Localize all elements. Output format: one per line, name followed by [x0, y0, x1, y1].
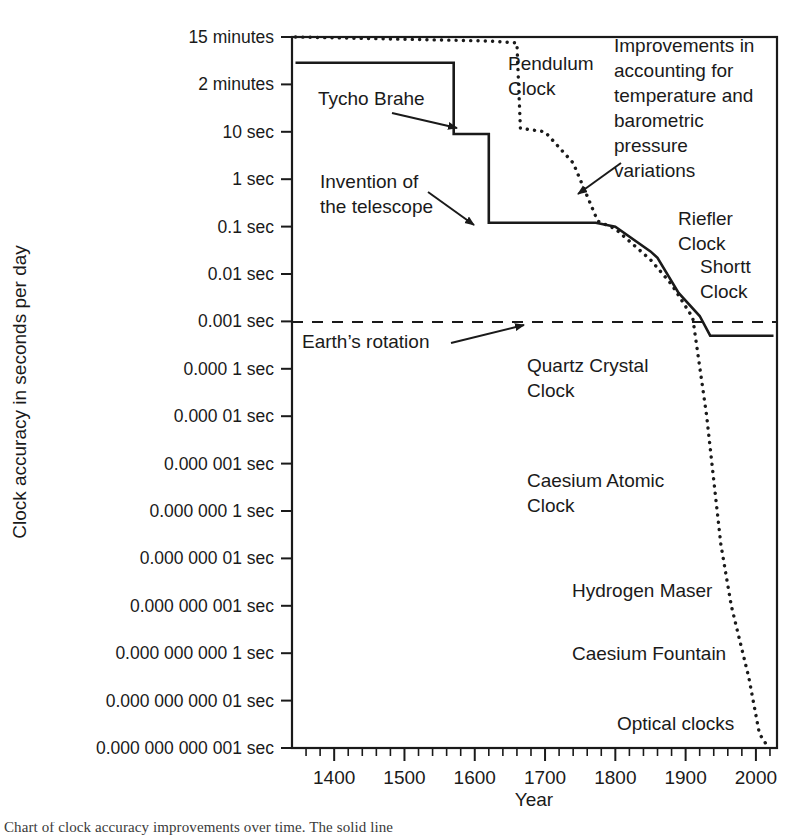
- x-tick-label: 1600: [454, 767, 496, 788]
- y-tick-label: 0.000 000 000 001 sec: [96, 738, 274, 758]
- x-tick-label: 1900: [664, 767, 706, 788]
- annotation-label: Optical clocks: [617, 713, 734, 734]
- annotation-label: pressure: [614, 135, 688, 156]
- annotation-hydrogen-maser: Hydrogen Maser: [572, 580, 713, 601]
- annotation-label: Invention of: [320, 171, 419, 192]
- y-axis: 15 minutes2 minutes10 sec1 sec0.1 sec0.0…: [96, 27, 292, 758]
- y-tick-label: 0.000 01 sec: [174, 406, 274, 426]
- annotation-label: Clock: [508, 78, 556, 99]
- x-tick-label: 1700: [524, 767, 566, 788]
- annotation-label: Improvements in: [614, 35, 754, 56]
- figure-caption-strip: Chart of clock accuracy improvements ove…: [0, 822, 808, 840]
- figure-caption: Chart of clock accuracy improvements ove…: [4, 822, 393, 836]
- y-tick-label: 0.000 000 000 01 sec: [106, 691, 275, 711]
- clock-accuracy-figure: 15 minutes2 minutes10 sec1 sec0.1 sec0.0…: [0, 0, 808, 840]
- y-tick-label: 0.000 000 001 sec: [130, 596, 274, 616]
- annotation-label: Tycho Brahe: [318, 88, 425, 109]
- x-tick-label: 2000: [735, 767, 777, 788]
- annotation-label: Earth’s rotation: [302, 331, 429, 352]
- annotation-label: accounting for: [614, 60, 734, 81]
- y-tick-label: 0.000 000 1 sec: [149, 501, 274, 521]
- annotation-optical-clocks: Optical clocks: [617, 713, 734, 734]
- y-axis-title: Clock accuracy in seconds per day: [9, 245, 30, 539]
- annotation-label: Caesium Atomic: [527, 470, 664, 491]
- y-tick-label: 0.000 1 sec: [184, 359, 275, 379]
- y-tick-label: 0.01 sec: [208, 264, 274, 284]
- annotation-caesium-fountain: Caesium Fountain: [572, 643, 726, 664]
- annotation-label: barometric: [614, 110, 704, 131]
- x-tick-label: 1800: [594, 767, 636, 788]
- annotation-label: Hydrogen Maser: [572, 580, 713, 601]
- annotation-label: Clock: [678, 233, 726, 254]
- annotation-label: temperature and: [614, 85, 753, 106]
- annotation-label: Clock: [700, 281, 748, 302]
- y-tick-label: 0.1 sec: [218, 217, 275, 237]
- y-tick-label: 0.000 000 000 1 sec: [115, 643, 274, 663]
- annotation-label: Shortt: [700, 256, 751, 277]
- annotation-label: Caesium Fountain: [572, 643, 726, 664]
- annotation-label: Quartz Crystal: [527, 355, 648, 376]
- annotation-label: Riefler: [678, 208, 734, 229]
- annotation-label: Clock: [527, 495, 575, 516]
- y-tick-label: 2 minutes: [198, 74, 274, 94]
- y-tick-label: 0.000 001 sec: [164, 454, 274, 474]
- y-tick-label: 0.001 sec: [198, 311, 274, 331]
- annotation-label: Pendulum: [508, 53, 594, 74]
- y-tick-label: 1 sec: [232, 169, 274, 189]
- annotation-label: Clock: [527, 380, 575, 401]
- annotation-label: variations: [614, 160, 695, 181]
- chart-canvas: 15 minutes2 minutes10 sec1 sec0.1 sec0.0…: [0, 0, 808, 840]
- x-axis: 1400150016001700180019002000: [306, 748, 777, 788]
- x-tick-label: 1500: [383, 767, 425, 788]
- y-tick-label: 10 sec: [222, 122, 274, 142]
- y-tick-label: 0.000 000 01 sec: [140, 548, 275, 568]
- annotation-label: the telescope: [320, 196, 433, 217]
- x-axis-title: Year: [515, 789, 554, 810]
- y-tick-label: 15 minutes: [188, 27, 274, 47]
- x-tick-label: 1400: [313, 767, 355, 788]
